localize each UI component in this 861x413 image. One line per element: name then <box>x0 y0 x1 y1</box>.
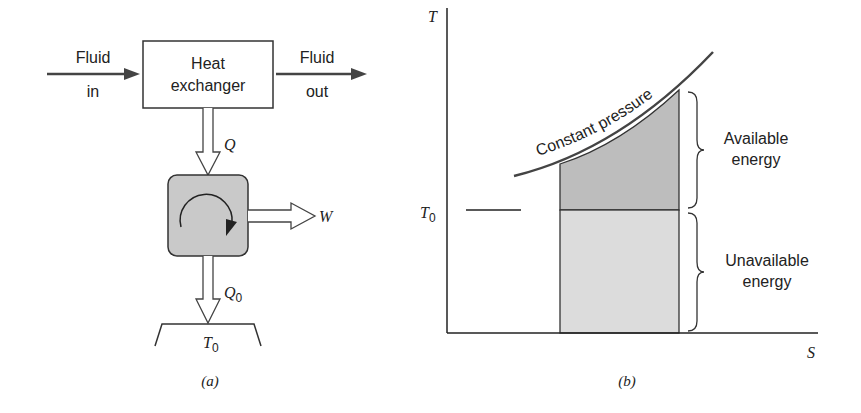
y-axis-label: T <box>428 8 438 25</box>
available-energy-label-1: Available <box>724 130 789 147</box>
reservoir-label: T0 <box>203 334 219 355</box>
caption-b: (b) <box>618 373 636 390</box>
heat-out-arrow <box>196 256 220 323</box>
heat-exchanger-label-1: Heat <box>191 55 225 72</box>
diagram-a: Fluid in Heat exchanger Fluid out Q W Q0… <box>47 41 367 390</box>
heat-in-label: Q <box>224 136 236 153</box>
heat-out-label: Q0 <box>224 284 243 305</box>
fluid-in-label-1: Fluid <box>76 49 111 66</box>
unavailable-energy-label-2: energy <box>743 273 792 290</box>
work-label: W <box>319 208 334 225</box>
fluid-in-arrow <box>47 68 140 80</box>
fluid-out-label-1: Fluid <box>300 49 335 66</box>
unavailable-energy-brace <box>688 213 704 331</box>
diagram-b: T S T0 Constant pressure Available energ… <box>420 8 818 390</box>
t0-label: T0 <box>420 204 436 225</box>
available-energy-brace <box>688 92 704 208</box>
figure-canvas: Fluid in Heat exchanger Fluid out Q W Q0… <box>0 0 861 413</box>
fluid-out-arrow <box>276 68 367 80</box>
x-axis-label: S <box>807 344 815 361</box>
fluid-out-label-2: out <box>306 83 329 100</box>
unavailable-energy-region <box>560 210 679 333</box>
unavailable-energy-label-1: Unavailable <box>725 252 809 269</box>
caption-a: (a) <box>201 373 219 390</box>
heat-exchanger-box <box>143 41 273 108</box>
available-energy-label-2: energy <box>732 151 781 168</box>
fluid-in-label-2: in <box>87 83 99 100</box>
heat-exchanger-label-2: exchanger <box>171 77 246 94</box>
work-arrow <box>248 203 315 229</box>
heat-in-arrow <box>196 108 220 175</box>
